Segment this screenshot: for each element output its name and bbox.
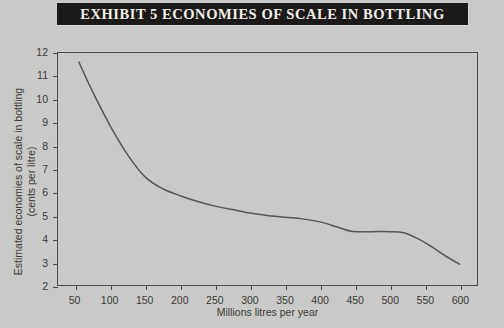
y-axis-tick-label: 3 [42, 257, 48, 269]
x-axis-tick [461, 285, 462, 290]
x-axis-tick-label: 150 [136, 294, 154, 306]
y-axis-tick-label: 9 [42, 116, 48, 128]
y-axis-title-line1: Estimated economies of scale in bottling [12, 88, 24, 275]
exhibit-title-banner: EXHIBIT 5 ECONOMIES OF SCALE IN BOTTLING [57, 3, 468, 25]
x-axis-tick [76, 285, 77, 290]
x-axis-tick-label: 400 [311, 294, 329, 306]
x-axis-title: Millions litres per year [57, 306, 478, 318]
x-axis-tick [146, 285, 147, 290]
x-axis-tick-label: 600 [452, 294, 470, 306]
x-axis-tick [216, 285, 217, 290]
economies-of-scale-curve [58, 53, 477, 285]
y-axis-tick [53, 240, 58, 241]
x-axis-tick-label: 350 [276, 294, 294, 306]
x-axis-tick-label: 250 [206, 294, 224, 306]
y-axis-tick [53, 217, 58, 218]
y-axis-tick [53, 123, 58, 124]
y-axis-tick [53, 53, 58, 54]
x-axis-tick-label: 300 [241, 294, 259, 306]
y-axis-tick-label: 7 [42, 163, 48, 175]
y-axis-tick-label: 2 [42, 280, 48, 292]
curve-line [79, 62, 460, 264]
y-axis-tick [53, 76, 58, 77]
y-axis-tick-label: 11 [37, 69, 48, 81]
y-axis-tick [53, 287, 58, 288]
x-axis-tick [356, 285, 357, 290]
y-axis-title: Estimated economies of scale in bottling… [12, 62, 37, 302]
chart-canvas [58, 53, 477, 285]
y-axis-tick-label: 10 [36, 93, 48, 105]
x-axis-tick-label: 50 [69, 294, 81, 306]
x-axis-tick-label: 200 [171, 294, 189, 306]
y-axis-tick [53, 264, 58, 265]
y-axis-tick [53, 147, 58, 148]
x-axis-tick-label: 500 [382, 294, 400, 306]
x-axis-tick [391, 285, 392, 290]
plot-area [57, 52, 478, 286]
x-axis-tick [251, 285, 252, 290]
y-axis-tick-label: 6 [42, 186, 48, 198]
y-axis-tick [53, 170, 58, 171]
x-axis-tick-label: 450 [346, 294, 364, 306]
page-title: EXHIBIT 5 ECONOMIES OF SCALE IN BOTTLING [80, 6, 444, 23]
y-axis-title-line2: (cents per litre) [24, 62, 37, 302]
y-axis-tick-label: 5 [42, 210, 48, 222]
y-axis-tick-label: 4 [42, 233, 48, 245]
x-axis-tick [321, 285, 322, 290]
y-axis-tick-label: 8 [42, 140, 48, 152]
x-axis-tick [426, 285, 427, 290]
y-axis-tick [53, 193, 58, 194]
x-axis-tick-label: 550 [417, 294, 435, 306]
exhibit-figure: EXHIBIT 5 ECONOMIES OF SCALE IN BOTTLING… [0, 0, 504, 328]
x-axis-tick-label: 100 [101, 294, 119, 306]
y-axis-tick-label: 12 [36, 46, 48, 58]
y-axis-tick [53, 100, 58, 101]
x-axis-tick [286, 285, 287, 290]
x-axis-tick [111, 285, 112, 290]
x-axis-tick [181, 285, 182, 290]
